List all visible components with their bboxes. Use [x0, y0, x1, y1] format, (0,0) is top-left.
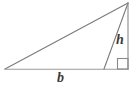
base-label: b	[57, 71, 64, 85]
geometry-figure: b h	[0, 0, 140, 90]
height-label: h	[116, 33, 124, 47]
